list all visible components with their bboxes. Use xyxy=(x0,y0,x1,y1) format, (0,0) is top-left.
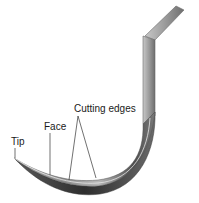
label-cutting-edges: Cutting edges xyxy=(74,103,136,114)
instrument-diagram: Tip Face Cutting edges xyxy=(0,0,199,203)
shank-vertical-segment xyxy=(143,36,155,124)
cutting-edge-leader-2 xyxy=(78,116,96,178)
cutting-edge-leader-1 xyxy=(69,116,78,180)
label-face: Face xyxy=(44,121,67,132)
shank xyxy=(143,6,184,124)
shank-angled-segment xyxy=(145,6,184,40)
label-tip: Tip xyxy=(11,136,25,147)
